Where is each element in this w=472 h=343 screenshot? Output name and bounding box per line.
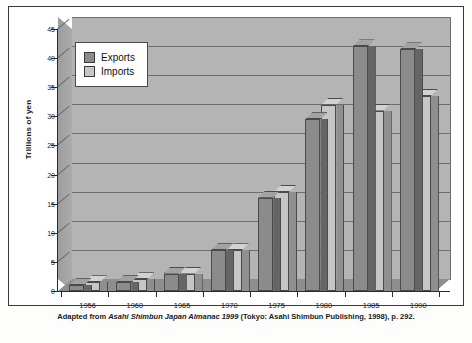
y-tick-label: 10 <box>47 229 55 236</box>
bar-side-face <box>273 198 281 291</box>
x-tick-label-1990: 1990 <box>410 301 427 310</box>
bar-front-face <box>116 282 131 291</box>
legend-label-exports: Exports <box>101 52 135 63</box>
y-tick-label: 0 <box>51 288 55 295</box>
caption-suffix: (Tokyo: Asahi Shimbun Publishing, 1998),… <box>238 312 414 321</box>
y-tick-label: 35 <box>47 84 55 91</box>
y-axis-title: Trillions of yen <box>24 75 33 185</box>
y-tick-label: 20 <box>47 171 55 178</box>
y-tick-label: 5 <box>51 258 55 265</box>
bar-exports-1956 <box>69 285 84 291</box>
bar-exports-1990 <box>400 49 415 291</box>
bar-side-face <box>289 192 297 291</box>
gridline <box>72 104 450 105</box>
bar-side-face <box>179 274 187 291</box>
x-tick-label-1975: 1975 <box>268 301 285 310</box>
bar-side-face <box>84 285 92 291</box>
bar-side-face <box>147 279 155 291</box>
bar-side-face <box>131 282 139 291</box>
chart-figure: Trillions of yen 051015202530354045 1956… <box>8 6 464 306</box>
gridline <box>72 192 450 193</box>
x-tick-mark <box>250 291 251 297</box>
legend-swatch-exports <box>84 52 95 63</box>
bar-exports-1960 <box>116 282 131 291</box>
bar-front-face <box>258 198 273 291</box>
bar-side-face <box>100 282 108 291</box>
caption-source-title: Asahi Shimbun Japan Almanac 1999 <box>108 312 238 321</box>
scanned-page: Trillions of yen 051015202530354045 1956… <box>0 0 472 343</box>
x-tick-mark <box>392 291 393 297</box>
figure-caption: Adapted from Asahi Shimbun Japan Almanac… <box>8 311 464 322</box>
x-tick-label-1970: 1970 <box>221 301 238 310</box>
legend-item-imports: Imports <box>84 66 135 77</box>
bar-side-face <box>336 105 344 291</box>
gridline <box>72 133 450 134</box>
bar-side-face <box>226 250 234 291</box>
bar-side-face <box>384 111 392 291</box>
bar-side-face <box>415 49 423 291</box>
caption-prefix: Adapted from <box>57 312 108 321</box>
bar-exports-1980 <box>305 119 320 291</box>
y-tick-label: 25 <box>47 142 55 149</box>
chart-legend: Exports Imports <box>75 42 148 87</box>
x-tick-label-1965: 1965 <box>174 301 191 310</box>
x-tick-label-1960: 1960 <box>127 301 144 310</box>
bar-side-face <box>195 274 203 291</box>
x-tick-mark <box>156 291 157 297</box>
legend-label-imports: Imports <box>101 66 134 77</box>
y-tick-label: 30 <box>47 113 55 120</box>
bar-exports-1965 <box>164 274 179 291</box>
gridline <box>72 163 450 164</box>
x-tick-label-1980: 1980 <box>316 301 333 310</box>
bar-front-face <box>305 119 320 291</box>
bar-side-face <box>431 96 439 291</box>
bar-exports-1970 <box>211 250 226 291</box>
legend-item-exports: Exports <box>84 52 135 63</box>
x-tick-label-1956: 1956 <box>79 301 96 310</box>
bar-side-face <box>368 46 376 291</box>
bar-exports-1985 <box>353 46 368 291</box>
bar-side-face <box>242 250 250 291</box>
bar-exports-1975 <box>258 198 273 291</box>
y-tick-label: 40 <box>47 55 55 62</box>
x-tick-mark <box>61 291 62 297</box>
legend-swatch-imports <box>84 66 95 77</box>
y-axis-line <box>57 29 58 291</box>
bar-side-face <box>320 119 328 291</box>
bar-front-face <box>353 46 368 291</box>
y-tick-label: 45 <box>47 26 55 33</box>
bar-front-face <box>400 49 415 291</box>
x-tick-mark <box>345 291 346 297</box>
x-tick-mark <box>108 291 109 297</box>
x-tick-label-1985: 1985 <box>363 301 380 310</box>
bar-front-face <box>69 285 84 291</box>
gridline <box>72 17 450 18</box>
bar-front-face <box>164 274 179 291</box>
x-tick-mark <box>297 291 298 297</box>
x-tick-mark <box>203 291 204 297</box>
x-tick-mark <box>439 291 440 297</box>
plot-left-wall <box>58 17 72 291</box>
bar-front-face <box>211 250 226 291</box>
y-tick-label: 15 <box>47 200 55 207</box>
